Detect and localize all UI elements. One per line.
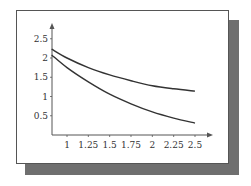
data-lines [52,49,195,123]
series-line [52,49,195,91]
x-tick-label: 1.75 [121,140,141,150]
y-tick-label: 0.5 [34,111,49,121]
x-tick-label: 2 [149,140,155,150]
chart-plot: 11.251.51.7522.252.50.511.522.5 [0,0,251,186]
y-axis-arrow-icon [50,23,55,29]
x-tick-label: 1.5 [103,140,118,150]
x-tick-label: 1.25 [78,140,98,150]
x-axis-arrow-icon [207,133,213,138]
tick-labels: 11.251.51.7522.252.50.511.522.5 [34,34,203,150]
y-tick-label: 1 [42,92,48,102]
x-tick-label: 2.5 [188,140,203,150]
x-tick-label: 1 [64,140,70,150]
y-tick-label: 2.5 [34,34,49,44]
y-tick-label: 1.5 [34,72,49,82]
x-tick-label: 2.25 [164,140,184,150]
y-tick-label: 2 [42,53,48,63]
